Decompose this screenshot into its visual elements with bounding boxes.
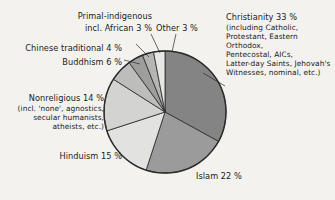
pie-chart-figure: Christianity 33 %Islam 22 %Hinduism 15 %…: [0, 0, 335, 200]
label-nonreligious: Nonreligious 14 % (incl. 'none', agnosti…: [0, 85, 104, 140]
label-chinese-traditional: Chinese traditional 4 %: [4, 44, 122, 53]
pie-slices-group: Christianity 33 %Islam 22 %Hinduism 15 %…: [104, 51, 226, 173]
label-christianity: Christianity 33 % (including Catholic, P…: [226, 4, 334, 86]
leader-line-other: [172, 34, 176, 52]
label-islam: Islam 22 %: [196, 172, 276, 181]
leader-line-primal-indigenous: [151, 34, 160, 53]
label-nonreligious-detail: (incl. 'none', agnostics, secular humani…: [0, 104, 104, 131]
label-primal-indigenous-line2: incl. African 3 %: [32, 24, 152, 33]
label-nonreligious-title: Nonreligious 14 %: [29, 93, 104, 103]
label-hinduism: Hinduism 15 %: [32, 152, 122, 161]
label-christianity-title: Christianity 33 %: [226, 12, 297, 22]
label-christianity-detail: (including Catholic, Protestant, Eastern…: [226, 23, 334, 77]
label-buddhism: Buddhism 6 %: [4, 58, 122, 67]
label-other: Other 3 %: [156, 24, 212, 33]
label-primal-indigenous-line1: Primal-indigenous: [32, 12, 152, 21]
